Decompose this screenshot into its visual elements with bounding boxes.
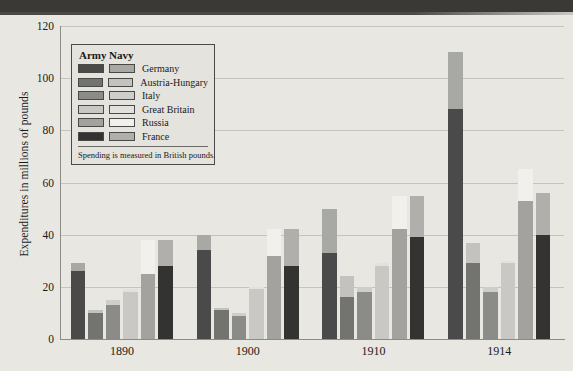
army-segment [392,229,407,339]
legend-army-swatch [78,91,104,100]
legend-label: Italy [142,90,160,101]
legend-header: Army Navy [78,49,208,61]
navy-segment [392,196,407,230]
legend-army-swatch [78,118,104,127]
legend-item-russia: Russia [78,116,208,130]
army-segment [123,292,138,339]
army-segment [232,316,247,339]
army-segment [158,266,173,339]
x-tick-1914: 1914 [487,344,511,359]
bar-1914-russia [518,169,533,339]
y-tick-0: 0 [20,333,54,345]
legend-army-swatch [78,105,104,114]
army-segment [536,235,551,339]
y-tick-20: 20 [20,281,54,293]
army-segment [410,237,425,339]
army-segment [501,263,516,339]
legend-navy-swatch [109,64,135,73]
bar-1914-austria-hungary [466,243,481,340]
navy-segment [322,209,337,253]
legend-item-germany: Germany [78,62,208,76]
legend-label: Russia [142,117,169,128]
army-segment [340,297,355,339]
bar-1890-russia [141,240,156,339]
bar-group-1914 [448,26,550,339]
x-tick-1890: 1890 [110,344,134,359]
y-tick-60: 60 [20,177,54,189]
bar-1900-russia [267,229,282,339]
bar-1910-france [410,196,425,339]
navy-segment [141,240,156,274]
army-segment [197,250,212,339]
bar-1890-germany [71,263,86,339]
legend-label: France [142,131,169,142]
army-segment [249,289,264,339]
y-axis-tick-labels: 020406080100120 [14,0,54,371]
bar-1900-germany [197,235,212,339]
army-segment [375,266,390,339]
navy-segment [518,169,533,200]
legend-item-great-britain: Great Britain [78,103,208,117]
x-axis-line [60,339,565,340]
legend-note: Spending is measured in British pounds. [78,146,208,160]
bar-1910-germany [322,209,337,339]
navy-segment [158,240,173,266]
bar-1914-italy [483,287,498,339]
legend-item-france: France [78,130,208,144]
legend-label: Austria-Hungary [140,77,208,88]
legend-item-italy: Italy [78,89,208,103]
y-tick-40: 40 [20,229,54,241]
legend-item-austria-hungary: Austria-Hungary [78,76,208,90]
legend-label: Germany [142,63,179,74]
bar-1910-great-britain [375,263,390,339]
army-segment [448,109,463,339]
x-tick-1910: 1910 [361,344,385,359]
army-segment [88,313,103,339]
bar-1914-great-britain [501,261,516,339]
bar-1890-italy [106,300,121,339]
army-segment [357,292,372,339]
legend-army-swatch [78,78,103,87]
y-tick-100: 100 [20,72,54,84]
navy-segment [448,52,463,109]
legend-rows: GermanyAustria-HungaryItalyGreat Britain… [78,62,208,143]
army-segment [284,266,299,339]
army-segment [483,292,498,339]
bar-1914-germany [448,52,463,339]
y-tick-80: 80 [20,124,54,136]
bar-1900-austria-hungary [214,308,229,339]
legend-army-swatch [78,64,104,73]
bar-group-1910 [322,26,424,339]
army-segment [518,201,533,339]
legend-label: Great Britain [142,104,194,115]
legend-navy-title: Navy [109,49,133,61]
navy-segment [410,196,425,238]
bar-1900-great-britain [249,287,264,339]
legend-navy-swatch [109,91,135,100]
bar-1910-russia [392,196,407,339]
army-segment [322,253,337,339]
bar-1914-france [536,193,551,339]
bar-1900-italy [232,313,247,339]
navy-segment [284,229,299,266]
legend-navy-swatch [109,132,135,141]
army-segment [466,263,481,339]
bar-1900-france [284,229,299,339]
bar-1890-france [158,240,173,339]
army-segment [141,274,156,339]
y-tick-120: 120 [20,20,54,32]
army-segment [106,305,121,339]
navy-segment [71,263,86,271]
navy-segment [536,193,551,235]
legend-navy-swatch [109,105,135,114]
legend-army-title: Army [79,49,109,61]
bar-1890-austria-hungary [88,310,103,339]
army-segment [71,271,86,339]
military-expenditures-bar-chart: Expenditures in millions of pounds 02040… [0,0,573,371]
legend-navy-swatch [108,78,133,87]
navy-segment [197,235,212,251]
navy-segment [267,229,282,255]
bar-1890-great-britain [123,289,138,339]
bar-1910-austria-hungary [340,276,355,339]
legend-army-swatch [78,132,104,141]
